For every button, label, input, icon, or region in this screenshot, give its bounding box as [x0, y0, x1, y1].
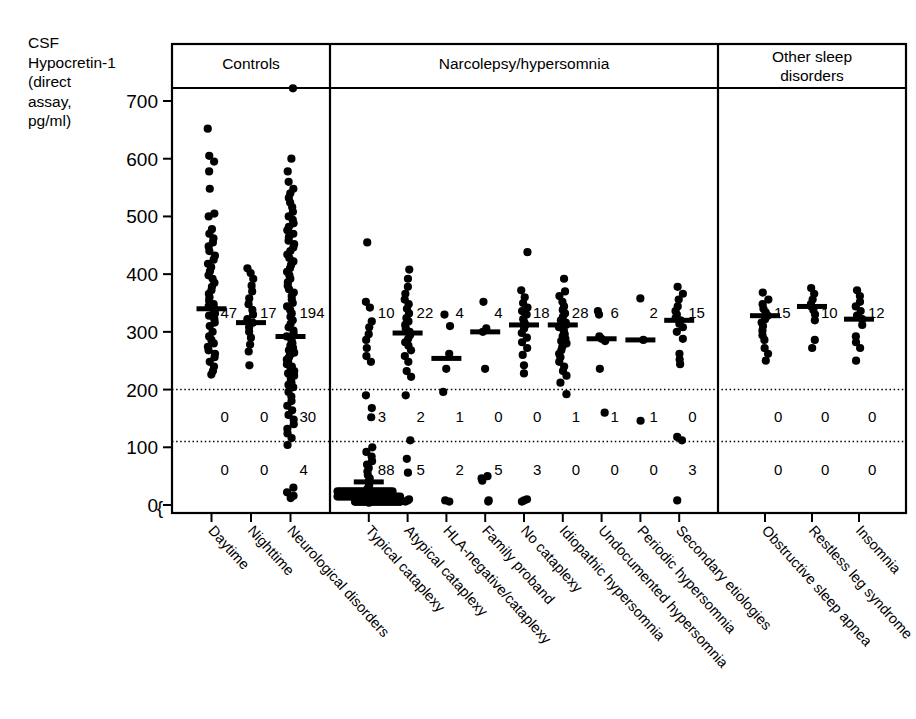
- data-point: [523, 344, 531, 352]
- count-label-above-200: 15: [774, 304, 791, 321]
- data-point: [367, 358, 375, 366]
- data-point: [366, 304, 374, 312]
- data-point: [288, 434, 296, 442]
- data-point: [678, 436, 686, 444]
- count-label-above-200: 12: [868, 304, 885, 321]
- y-axis-tick-label: 200: [126, 380, 158, 401]
- data-point: [283, 441, 291, 449]
- data-point: [287, 494, 295, 502]
- count-label-above-200: 6: [611, 304, 619, 321]
- count-label-below-110: 0: [821, 461, 829, 478]
- count-label-110-200: 30: [300, 408, 317, 425]
- data-point: [289, 84, 297, 92]
- data-point: [210, 158, 218, 166]
- data-point: [245, 361, 253, 369]
- data-point: [595, 310, 603, 318]
- y-axis-tick-label: 300: [126, 322, 158, 343]
- data-point: [519, 351, 527, 359]
- count-label-above-200: 47: [221, 304, 238, 321]
- count-label-110-200: 3: [378, 408, 386, 425]
- data-point: [479, 298, 487, 306]
- data-point: [205, 167, 213, 175]
- count-label-below-110: 0: [774, 461, 782, 478]
- count-label-below-110: 88: [378, 461, 395, 478]
- data-point: [811, 316, 819, 324]
- count-label-below-110: 0: [611, 461, 619, 478]
- data-point: [247, 334, 255, 342]
- group-header-label: Other sleep: [772, 48, 852, 65]
- data-point: [406, 436, 414, 444]
- count-label-below-110: 2: [455, 461, 463, 478]
- data-point: [478, 477, 486, 485]
- count-label-below-110: 0: [649, 461, 657, 478]
- data-point: [601, 409, 609, 417]
- y-axis-tick-label: 100: [126, 437, 158, 458]
- data-point: [404, 469, 412, 477]
- data-point: [285, 178, 293, 186]
- count-label-above-200: 4: [455, 304, 463, 321]
- data-point: [484, 497, 492, 505]
- group-header-label: disorders: [780, 67, 844, 84]
- count-label-110-200: 0: [260, 408, 268, 425]
- data-point: [679, 335, 687, 343]
- count-label-below-110: 0: [572, 461, 580, 478]
- data-point: [440, 310, 448, 318]
- data-point: [405, 265, 413, 273]
- data-point: [562, 372, 570, 380]
- count-label-above-200: 2: [649, 304, 657, 321]
- count-label-above-200: 15: [688, 304, 705, 321]
- count-label-below-110: 5: [494, 461, 502, 478]
- count-label-110-200: 0: [494, 408, 502, 425]
- count-label-below-110: 3: [688, 461, 696, 478]
- count-label-above-200: 194: [300, 304, 325, 321]
- data-point: [245, 347, 253, 355]
- data-point: [363, 238, 371, 246]
- data-point: [362, 391, 370, 399]
- data-point: [520, 361, 528, 369]
- data-point: [556, 379, 564, 387]
- data-point: [439, 388, 447, 396]
- count-label-below-110: 0: [868, 461, 876, 478]
- data-point: [407, 346, 415, 354]
- data-point: [362, 336, 370, 344]
- data-point: [388, 487, 396, 495]
- data-point: [762, 357, 770, 365]
- data-point: [442, 365, 450, 373]
- data-point: [674, 283, 682, 291]
- data-point: [401, 497, 409, 505]
- data-point: [636, 294, 644, 302]
- group-header-label: Narcolepsy/hypersomnia: [439, 55, 610, 72]
- count-label-110-200: 1: [611, 408, 619, 425]
- count-label-110-200: 0: [868, 408, 876, 425]
- count-label-above-200: 10: [378, 304, 395, 321]
- count-label-above-200: 28: [572, 304, 589, 321]
- count-label-110-200: 0: [688, 408, 696, 425]
- data-point: [206, 185, 214, 193]
- count-label-above-200: 22: [417, 304, 434, 321]
- data-point: [363, 344, 371, 352]
- data-point: [368, 404, 376, 412]
- y-axis-tick-label: 500: [126, 206, 158, 227]
- data-point: [636, 417, 644, 425]
- data-point: [518, 497, 526, 505]
- count-label-below-110: 0: [260, 461, 268, 478]
- data-point: [676, 360, 684, 368]
- data-point: [562, 390, 570, 398]
- data-point: [808, 344, 816, 352]
- count-label-110-200: 0: [533, 408, 541, 425]
- data-point: [481, 365, 489, 373]
- count-label-above-200: 4: [494, 304, 502, 321]
- data-point: [404, 358, 412, 366]
- count-label-110-200: 1: [572, 408, 580, 425]
- count-label-110-200: 0: [821, 408, 829, 425]
- figure-container: CSFHypocretin-1(directassay,pg/ml) Contr…: [0, 0, 916, 719]
- zero-brace: {: [157, 497, 164, 518]
- data-point: [675, 295, 683, 303]
- count-label-110-200: 2: [417, 408, 425, 425]
- data-point: [205, 212, 213, 220]
- data-point: [759, 289, 767, 297]
- data-point: [446, 322, 454, 330]
- group-header-label: Controls: [222, 55, 280, 72]
- data-point: [246, 340, 254, 348]
- data-point: [207, 370, 215, 378]
